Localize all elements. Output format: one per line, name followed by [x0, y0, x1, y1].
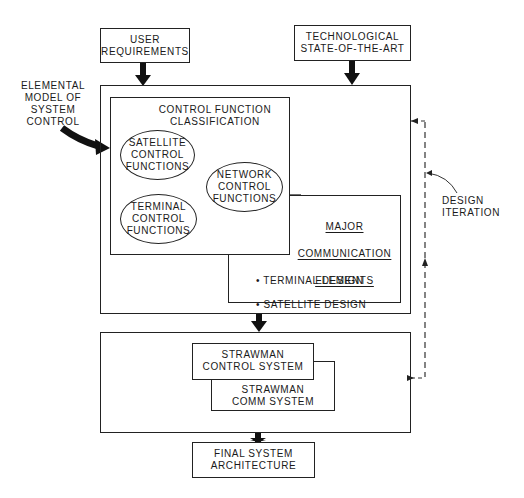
final-architecture-box: FINAL SYSTEM ARCHITECTURE — [192, 442, 315, 478]
arrow-left-icon — [411, 118, 418, 124]
design-iteration-label: DESIGN ITERATION — [442, 195, 500, 219]
strawman-comm-label: STRAWMAN COMM SYSTEM — [212, 384, 334, 408]
strawman-control-box: STRAWMAN CONTROL SYSTEM — [192, 343, 314, 380]
strawman-control-label: STRAWMAN CONTROL SYSTEM — [193, 349, 313, 373]
technological-label: TECHNOLOGICAL STATE-OF-THE-ART — [295, 31, 410, 55]
elemental-model-label: ELEMENTAL MODEL OF SYSTEM CONTROL — [18, 80, 88, 128]
bullet-item: • SATELLITE DESIGN — [256, 299, 366, 311]
final-architecture-label: FINAL SYSTEM ARCHITECTURE — [193, 448, 314, 472]
control-function-title: CONTROL FUNCTION CLASSIFICATION — [141, 104, 289, 128]
network-control-ellipse: NETWORK CONTROL FUNCTIONS — [206, 162, 283, 212]
arrow-down-icon — [135, 63, 151, 86]
arrow-down-icon — [344, 61, 360, 85]
design-iteration-loop — [411, 121, 425, 378]
title-line: MAJOR — [289, 221, 400, 233]
terminal-control-ellipse: TERMINAL CONTROL FUNCTIONS — [120, 194, 197, 244]
bullet-item: • TERMINAL DESIGN — [256, 275, 366, 287]
arrow-up-icon — [422, 258, 428, 266]
satellite-control-ellipse: SATELLITE CONTROL FUNCTIONS — [120, 130, 195, 180]
arrow-head-icon — [426, 170, 432, 176]
user-requirements-label: USER REQUIREMENTS — [101, 34, 189, 58]
user-requirements-box: USER REQUIREMENTS — [100, 28, 190, 63]
major-comm-bullets: • TERMINAL DESIGN • SATELLITE DESIGN — [256, 263, 366, 323]
technological-box: TECHNOLOGICAL STATE-OF-THE-ART — [294, 25, 411, 61]
control-function-box: CONTROL FUNCTION CLASSIFICATION SATELLIT… — [110, 97, 290, 255]
title-line: COMMUNICATION — [289, 248, 400, 260]
pointer-line — [428, 173, 457, 193]
